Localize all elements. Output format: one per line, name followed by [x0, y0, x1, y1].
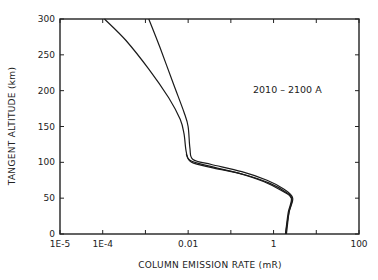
y-tick-label: 100 — [38, 157, 55, 167]
plot-frame — [60, 19, 359, 234]
series-line-3 — [186, 154, 292, 234]
series-line-1 — [105, 19, 292, 234]
y-tick-label: 150 — [38, 122, 55, 132]
y-axis-tick-labels: 050100150200250300 — [38, 14, 55, 239]
x-axis-title: COLUMN EMISSION RATE (mR) — [138, 260, 282, 270]
x-tick-label: 1 — [271, 239, 277, 249]
y-tick-label: 250 — [38, 50, 55, 60]
x-tick-label: 1E-4 — [93, 239, 114, 249]
chart: 1E-51E-40.011100 050100150200250300 COLU… — [0, 0, 378, 280]
x-tick-label: 100 — [350, 239, 367, 249]
y-axis-ticks — [60, 19, 359, 234]
y-tick-label: 200 — [38, 86, 55, 96]
y-tick-label: 50 — [44, 193, 56, 203]
y-tick-label: 300 — [38, 14, 55, 24]
x-tick-label: 1E-5 — [50, 239, 70, 249]
wavelength-annotation: 2010 – 2100 A — [253, 84, 322, 95]
series-line-2 — [149, 19, 293, 234]
y-axis-title: TANGENT ALTITUDE (km) — [7, 67, 17, 186]
y-tick-label: 0 — [49, 229, 55, 239]
x-axis-ticks — [60, 19, 359, 234]
data-series — [105, 19, 293, 234]
x-axis-tick-labels: 1E-51E-40.011100 — [50, 239, 368, 249]
x-tick-label: 0.01 — [178, 239, 198, 249]
